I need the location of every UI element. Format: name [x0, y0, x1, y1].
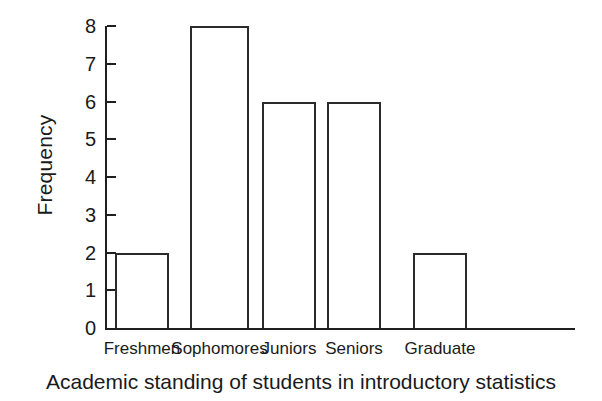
y-axis-label: Frequency	[28, 0, 62, 330]
y-axis-tick-label-2: 2	[74, 243, 96, 263]
bar-freshmen	[115, 253, 169, 329]
bar-graduate	[413, 253, 467, 329]
y-axis-tick-3	[107, 214, 116, 216]
y-axis-tick-6	[107, 101, 116, 103]
plot-area	[105, 26, 575, 330]
y-axis-line	[105, 26, 107, 330]
y-axis-tick-label-1: 1	[74, 280, 96, 300]
x-axis-line	[105, 328, 575, 330]
x-axis-label-graduate: Graduate	[380, 338, 500, 360]
y-axis-tick-label-5: 5	[74, 129, 96, 149]
y-axis-tick-label-3: 3	[74, 205, 96, 225]
y-axis-tick-4	[107, 176, 116, 178]
y-axis-tick-labels: 876543210	[70, 26, 96, 330]
y-axis-tick-label-7: 7	[74, 54, 96, 74]
y-axis-tick-5	[107, 138, 116, 140]
y-axis-tick-8	[107, 25, 116, 27]
y-axis-tick-label-4: 4	[74, 167, 96, 187]
y-axis-tick-label-0: 0	[74, 318, 96, 338]
y-axis-tick-7	[107, 63, 116, 65]
bar-seniors	[327, 102, 381, 329]
y-axis-tick-label-8: 8	[74, 16, 96, 36]
y-axis-tick-label-6: 6	[74, 92, 96, 112]
x-axis-category-labels: FreshmenSophomoresJuniorsSeniorsGraduate	[105, 338, 575, 362]
bar-sophomores	[190, 26, 249, 328]
bar-juniors	[262, 102, 316, 329]
bar-chart-figure: Frequency 876543210 FreshmenSophomoresJu…	[0, 0, 602, 401]
figure-caption: Academic standing of students in introdu…	[0, 368, 602, 396]
